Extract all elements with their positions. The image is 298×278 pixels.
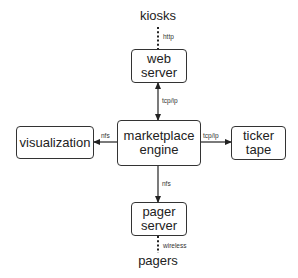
marketplace-engine-line1: marketplace (124, 129, 195, 143)
visualization-label: visualization (20, 136, 91, 150)
edge-label-wireless: wireless (163, 242, 186, 249)
kiosks-label: kiosks (128, 8, 188, 23)
ticker-tape-line2: tape (246, 143, 271, 157)
edge-label-http: http (163, 33, 174, 40)
ticker-tape-line1: ticker (243, 129, 274, 143)
ticker-tape-node: ticker tape (231, 126, 286, 160)
edge-label-nfs-pager: nfs (162, 180, 171, 187)
web-server-line2: server (141, 66, 177, 80)
system-architecture-diagram: kiosks web server marketplace engine vis… (0, 0, 298, 278)
edge-label-tcpip-web: tcp/ip (162, 97, 178, 104)
visualization-node: visualization (16, 126, 94, 159)
edge-label-tcpip-ticker: tcp/ip (203, 132, 219, 139)
marketplace-engine-node: marketplace engine (117, 120, 201, 166)
web-server-line1: web (147, 52, 171, 66)
web-server-node: web server (131, 49, 187, 83)
pager-server-line1: pager (142, 205, 175, 219)
edge-label-nfs-visualization: nfs (101, 132, 110, 139)
pager-server-line2: server (141, 219, 177, 233)
pager-server-node: pager server (131, 202, 187, 236)
pagers-label: pagers (128, 253, 188, 268)
marketplace-engine-line2: engine (139, 143, 178, 157)
